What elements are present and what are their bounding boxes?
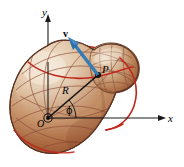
velocity-label: v <box>63 29 68 39</box>
point-p-label: P <box>102 64 109 75</box>
y-axis-label: y <box>42 7 47 18</box>
figure-canvas: y x O P R ϕ v <box>0 0 184 167</box>
angle-phi-label: ϕ <box>66 106 73 116</box>
diagram-svg <box>0 0 184 167</box>
origin-label: O <box>37 119 44 129</box>
radius-label: R <box>62 85 69 96</box>
x-axis-label: x <box>168 113 173 124</box>
